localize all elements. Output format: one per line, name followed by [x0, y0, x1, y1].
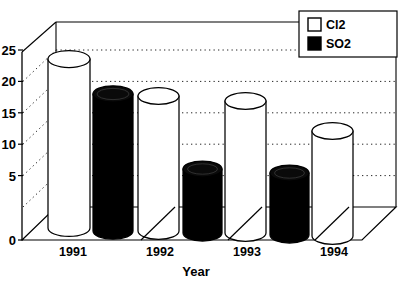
x-tick-1992: 1992 [146, 245, 174, 259]
y-tick-0: 0 [9, 233, 16, 248]
legend-label-so2: SO2 [326, 37, 351, 51]
legend-swatch-cl2 [308, 18, 321, 31]
bar-1993-so2 [270, 165, 309, 243]
bar-1994-cl2 [312, 123, 353, 245]
x-tick-1991: 1991 [59, 245, 87, 259]
bar-1991-so2 [93, 86, 133, 239]
y-tick-20: 20 [2, 74, 16, 89]
y-tick-5: 5 [9, 169, 16, 184]
chart-figure: 25 20 15 10 5 0 [0, 0, 408, 282]
y-tick-10: 10 [2, 137, 16, 152]
legend-item-so2[interactable]: SO2 [308, 37, 351, 51]
bar-1993-cl2 [225, 93, 266, 242]
x-tick-1994: 1994 [320, 245, 348, 259]
legend-item-cl2[interactable]: Cl2 [308, 18, 346, 32]
legend-label-cl2: Cl2 [326, 18, 346, 32]
bar-chart-canvas: 25 20 15 10 5 0 [0, 0, 408, 282]
chart-legend: Cl2 SO2 [299, 11, 397, 57]
bar-1991-cl2 [48, 51, 90, 237]
x-axis-title: Year [182, 264, 209, 279]
bar-1992-so2 [183, 161, 222, 241]
y-tick-25: 25 [2, 43, 16, 58]
x-tick-1993: 1993 [233, 245, 261, 259]
bar-1992-cl2 [138, 88, 179, 240]
y-axis-tick-labels: 25 20 15 10 5 0 [2, 43, 16, 248]
x-axis-tick-labels: 1991 1992 1993 1994 [59, 245, 348, 259]
legend-swatch-so2 [308, 37, 321, 50]
y-tick-15: 15 [2, 106, 16, 121]
